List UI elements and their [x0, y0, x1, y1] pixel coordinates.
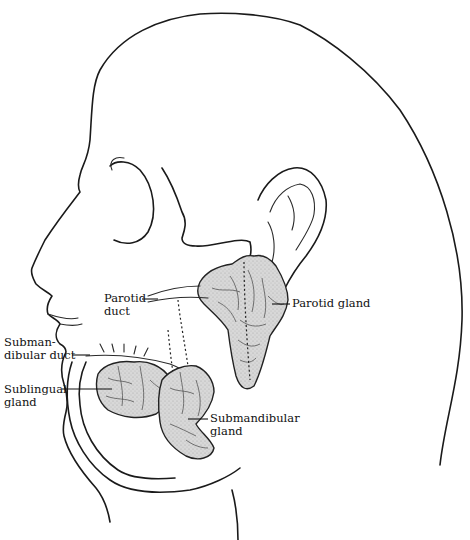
ear-tragus — [268, 222, 274, 262]
label-submandibular-gland: Submandibular gland — [210, 412, 300, 438]
duct-tufts — [100, 344, 148, 356]
label-parotid-duct: Parotid duct — [104, 292, 146, 318]
salivary-glands-diagram — [0, 0, 470, 540]
label-submandibular-duct: Subman- dibular duct — [4, 336, 75, 362]
ear-helix — [288, 196, 294, 230]
eye — [110, 162, 154, 243]
label-sublingual-gland: Sublingual gland — [4, 383, 67, 409]
label-parotid-gland: Parotid gland — [292, 297, 370, 310]
lips — [48, 314, 82, 326]
cheek-contour — [162, 168, 251, 262]
submandibular-gland — [159, 366, 214, 459]
neck-line — [232, 490, 238, 540]
ear-inner — [270, 184, 314, 250]
